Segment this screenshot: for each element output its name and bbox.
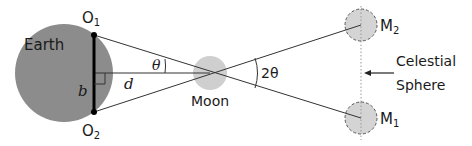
- two-theta-label: 2θ: [261, 65, 278, 81]
- m2-label: M2: [380, 17, 399, 36]
- moon-label: Moon: [191, 93, 229, 109]
- observer-o2-dot: [91, 109, 97, 115]
- baseline-label: b: [78, 82, 88, 100]
- celestial-arrow-head: [364, 70, 371, 76]
- two-theta-arc: [255, 58, 257, 88]
- o2-label: O2: [82, 122, 100, 141]
- earth-label: Earth: [24, 36, 64, 54]
- distance-label: d: [124, 75, 134, 93]
- theta-arc: [165, 59, 166, 73]
- m1-label: M1: [380, 110, 399, 129]
- parallax-diagram: Earth O1 O2 b d θ 2θ Moon M2: [0, 0, 472, 146]
- o1-label: O1: [82, 9, 100, 28]
- celestial-label-line1: Celestial: [396, 53, 456, 69]
- celestial-label-line2: Sphere: [396, 77, 445, 93]
- observer-o1-dot: [91, 32, 97, 38]
- theta-label: θ: [152, 57, 161, 73]
- diagram-canvas: Earth O1 O2 b d θ 2θ Moon M2: [0, 0, 472, 146]
